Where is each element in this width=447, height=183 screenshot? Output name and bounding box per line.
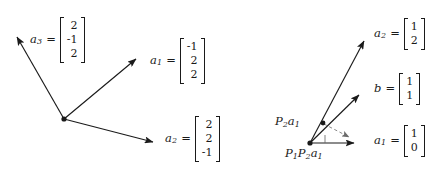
equals-sign: = [165,55,177,67]
vector-name-a3: a3 [30,34,42,47]
bracket-right [81,17,85,63]
vector-name-a1-left: a1 [150,55,162,68]
vector-components-a2-right: 1 2 [408,18,421,50]
vector-name-a2-left: a2 [165,133,177,146]
vector-figure-container: a3 = 2 -1 2 a1 = -1 2 2 [0,0,447,183]
vector-label-b: b = 1 1 [374,73,420,105]
component-0: 2 [71,19,78,33]
origin-point-right [307,140,312,145]
component-0: 1 [411,127,418,141]
vector-name-a2-right: a2 [374,28,386,41]
vector-label-a1-right: a1 = 1 0 [374,125,425,157]
component-1: 0 [411,141,418,155]
component-2: 2 [71,47,78,61]
bracket-right [201,38,205,84]
origin-point-left [61,116,66,121]
vector-label-a2-right: a2 = 1 2 [374,18,425,50]
component-2: -1 [202,146,213,160]
bracket-right [421,18,425,50]
component-1: -1 [67,33,78,47]
bracket-right [416,73,420,105]
vector-label-a3: a3 = 2 -1 2 [30,17,85,63]
point-label-P1P2a1: P1P2a1 [285,148,323,161]
vector-components-a3: 2 -1 2 [64,17,81,63]
point-marker-P2a1 [321,121,326,126]
vector-name-b: b [374,83,382,96]
column-vector-a1-right: 1 0 [404,125,425,157]
column-vector-b: 1 1 [399,73,420,105]
component-2: 2 [191,68,198,82]
component-1: 2 [191,54,198,68]
vector-label-a2-left: a2 = 2 2 -1 [165,116,220,162]
vector-arrow-a1-left [64,59,136,119]
point-label-P2a1: P2a1 [275,116,300,129]
component-0: 1 [406,75,413,89]
component-0: -1 [187,40,198,54]
component-1: 2 [411,34,418,48]
bracket-right [421,125,425,157]
column-vector-a2-left: 2 2 -1 [195,116,220,162]
vector-components-a1-left: -1 2 2 [184,38,201,84]
equals-sign: = [180,133,192,145]
vector-components-a1-right: 1 0 [408,125,421,157]
component-0: 1 [411,20,418,34]
column-vector-a2-right: 1 2 [404,18,425,50]
column-vector-a3: 2 -1 2 [60,17,85,63]
right-diagram-arrows [307,41,364,146]
vector-arrow-a2-left [64,119,153,142]
vector-arrow-b [310,95,359,143]
equals-sign: = [389,28,401,40]
point-label-P1P2a1-text: P1P2a1 [285,146,323,160]
equals-sign: = [45,34,57,46]
component-0: 2 [206,118,213,132]
column-vector-a1-left: -1 2 2 [180,38,205,84]
vector-arrow-a2-right [310,41,364,143]
vector-name-a1-right: a1 [374,135,386,148]
component-1: 2 [206,132,213,146]
vector-components-a2-left: 2 2 -1 [199,116,216,162]
component-1: 1 [406,89,413,103]
vector-components-b: 1 1 [403,73,416,105]
bracket-right [216,116,220,162]
equals-sign: = [389,135,401,147]
equals-sign: = [385,83,397,95]
point-label-P2a1-text: P2a1 [275,114,300,128]
vector-label-a1-left: a1 = -1 2 2 [150,38,205,84]
